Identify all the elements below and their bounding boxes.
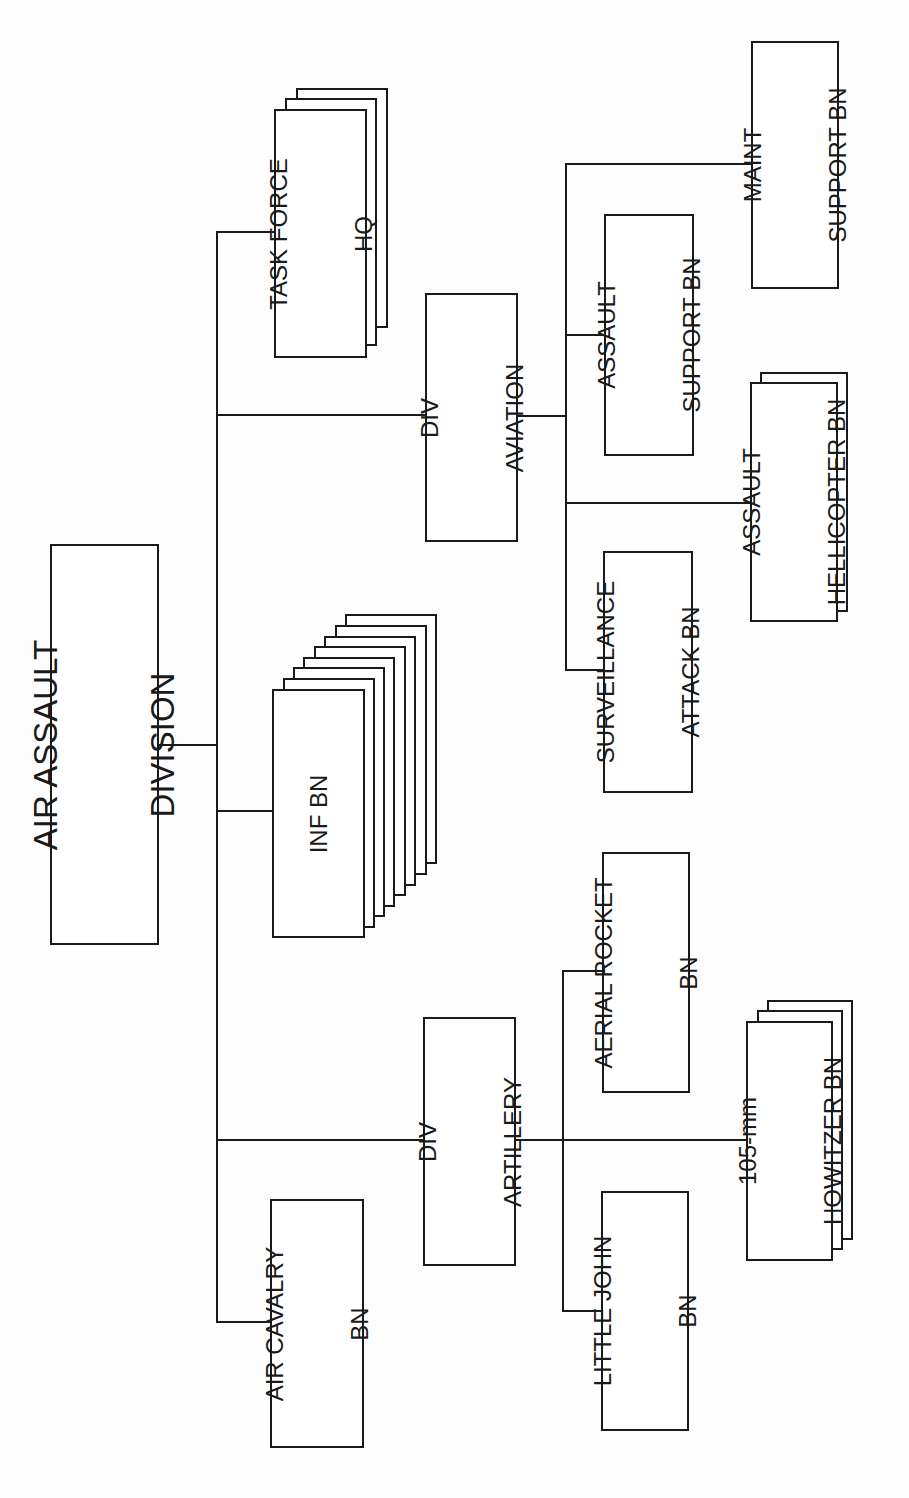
box-little-john-bn: LITTLE JOHN BN	[601, 1191, 689, 1431]
label-maint-support-bn: MAINT SUPPORT BN	[682, 87, 909, 242]
label-task-force-hq: TASK FORCE HQ	[207, 158, 434, 310]
box-inf-bn: INF BN	[272, 689, 365, 938]
label-div-artillery: DIV ARTILLERY	[356, 1077, 583, 1207]
label-assault-support-bn: ASSAULT SUPPORT BN	[536, 257, 763, 412]
box-maint-support-bn: MAINT SUPPORT BN	[751, 41, 839, 289]
label-howitzer-bn: 105-mm HOWITZER BN	[676, 1057, 903, 1225]
box-surveillance-attack-bn: SURVEILLANCE ATTACK BN	[603, 551, 693, 793]
box-div-aviation: DIV AVIATION	[425, 293, 518, 542]
box-div-artillery: DIV ARTILLERY	[423, 1017, 516, 1266]
org-chart-canvas: AIR ASSAULT DIVISION TASK FORCE HQ DIV A…	[0, 0, 909, 1498]
label-inf-bn: INF BN	[248, 774, 390, 853]
box-task-force-hq: TASK FORCE HQ	[274, 109, 367, 358]
box-air-assault-division: AIR ASSAULT DIVISION	[50, 544, 159, 945]
label-aerial-rocket-bn: AERIAL ROCKET BN	[533, 877, 760, 1068]
box-howitzer-bn: 105-mm HOWITZER BN	[746, 1021, 833, 1261]
label-surveillance-attack-bn: SURVEILLANCE ATTACK BN	[535, 581, 762, 763]
label-little-john-bn: LITTLE JOHN BN	[532, 1236, 759, 1387]
box-assault-helicopter-bn: ASSAULT HELLICOPTER BN	[750, 382, 838, 622]
box-air-cavalry-bn: AIR CAVALRY BN	[270, 1199, 364, 1448]
label-air-cavalry-bn: AIR CAVALRY BN	[204, 1246, 431, 1401]
label-assault-helicopter-bn: ASSAULT HELLICOPTER BN	[681, 399, 908, 606]
label-air-assault-division: AIR ASSAULT DIVISION	[0, 639, 260, 849]
